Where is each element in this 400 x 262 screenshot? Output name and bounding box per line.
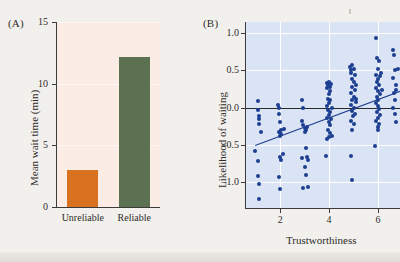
scatter-point	[306, 158, 310, 162]
panel-b-x-tick-label: 4	[309, 214, 349, 225]
scatter-point	[259, 130, 263, 134]
scatter-point	[376, 67, 380, 71]
panel-a-y-tick	[52, 207, 57, 208]
panel-b-y-tick	[241, 70, 246, 71]
scatter-point	[393, 98, 397, 102]
panel-b-x-axis-title: Trustworthiness	[286, 234, 357, 246]
panel-b-x-axis-line	[245, 208, 400, 209]
scatter-point	[257, 182, 261, 186]
scatter-point	[349, 154, 353, 158]
scatter-point	[391, 76, 395, 80]
scatter-point	[278, 187, 282, 191]
scatter-point	[256, 108, 260, 112]
scatter-point	[257, 122, 261, 126]
panel-a-y-axis-line	[56, 22, 57, 208]
scatter-point	[253, 149, 257, 153]
panel-a-y-tick	[52, 84, 57, 85]
scatter-point	[374, 73, 378, 77]
panel-a-gridline	[57, 22, 160, 23]
scatter-point	[393, 112, 397, 116]
scatter-point	[306, 185, 310, 189]
scatter-point	[278, 120, 282, 124]
scatter-point	[350, 128, 354, 132]
panel-b-gridline-h	[246, 33, 400, 34]
panel-a-y-tick-label: 0	[0, 201, 48, 212]
panel-b-plot-area	[246, 22, 400, 208]
scatter-point	[277, 112, 281, 116]
figure-container: (A) Mean wait time (min) (B) Likelihood …	[0, 0, 400, 262]
scatter-point	[352, 122, 356, 126]
panel-a-y-tick-label: 15	[0, 16, 48, 27]
scatter-point	[353, 73, 357, 77]
scatter-point	[379, 71, 383, 75]
scatter-point	[380, 88, 384, 92]
scatter-point	[324, 154, 328, 158]
panel-b-y-tick-label: 0.0	[196, 102, 239, 113]
scatter-point	[257, 197, 261, 201]
scatter-point	[396, 67, 400, 71]
panel-b-y-tick-label: 0.5	[196, 64, 239, 75]
scatter-point	[377, 59, 381, 63]
panel-b-y-tick-label: –1.0	[196, 176, 239, 187]
scatter-point	[376, 128, 380, 132]
panel-a-x-tick-label-reliable: Reliable	[94, 212, 174, 223]
panel-b-x-tick-label: 6	[358, 214, 398, 225]
scatter-point	[394, 120, 398, 124]
bar-unreliable	[67, 170, 98, 207]
scatter-point	[351, 114, 355, 118]
scatter-point	[391, 48, 395, 52]
panel-a-y-tick-label: 10	[0, 78, 48, 89]
panel-b-gridline-h	[246, 182, 400, 183]
panel-b-y-tick	[241, 182, 246, 183]
panel-b-y-tick	[241, 33, 246, 34]
panel-b-x-tick	[329, 208, 330, 213]
panel-b-x-tick	[378, 208, 379, 213]
panel-a-x-axis-line	[56, 207, 160, 208]
scatter-point	[391, 106, 395, 110]
panel-a-plot-area	[57, 22, 160, 207]
scatter-point	[349, 91, 353, 95]
scatter-point	[277, 175, 281, 179]
panel-a-y-tick	[52, 145, 57, 146]
panel-b-x-tick-label: 2	[260, 214, 300, 225]
scatter-point	[325, 137, 329, 141]
scatter-point	[354, 97, 358, 101]
scatter-point	[301, 186, 305, 190]
scatter-point	[354, 83, 358, 87]
scatter-point	[392, 53, 396, 57]
scatter-point	[301, 106, 305, 110]
scatter-point	[352, 67, 356, 71]
scatter-point	[303, 130, 307, 134]
page-speck-artifact	[349, 9, 351, 14]
panel-b-y-axis-line	[245, 22, 246, 209]
scatter-point	[353, 88, 357, 92]
scatter-point	[329, 82, 333, 86]
scatter-point	[394, 83, 398, 87]
scatter-point	[304, 146, 308, 150]
panel-b-y-tick	[241, 108, 246, 109]
scatter-point	[300, 119, 304, 123]
scatter-point	[257, 117, 261, 121]
scatter-point	[300, 156, 304, 160]
scatter-point	[256, 174, 260, 178]
bar-reliable	[119, 57, 150, 207]
panel-a-y-tick-label: 5	[0, 139, 48, 150]
panel-a-y-tick	[52, 22, 57, 23]
scatter-point	[282, 127, 286, 131]
scatter-point	[256, 99, 260, 103]
panel-b-y-tick	[241, 145, 246, 146]
scatter-point	[373, 144, 377, 148]
scatter-point	[374, 36, 378, 40]
scatter-point	[377, 83, 381, 87]
panel-b-y-tick-label: –0.5	[196, 139, 239, 150]
scatter-point	[279, 158, 283, 162]
scatter-point	[304, 173, 308, 177]
panel-b-y-tick-label: 1.0	[196, 27, 239, 38]
scatter-point	[330, 134, 334, 138]
scatter-point	[327, 92, 331, 96]
scatter-point	[281, 152, 285, 156]
scatter-point	[303, 165, 307, 169]
scatter-point	[330, 106, 334, 110]
scatter-point	[328, 123, 332, 127]
scatter-point	[300, 98, 304, 102]
